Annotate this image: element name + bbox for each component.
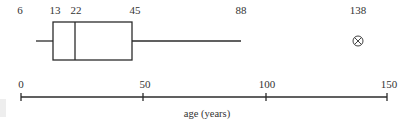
label-q3: 45 (130, 4, 142, 16)
tick-label-150: 150 (381, 78, 398, 90)
outlier-marker-icon (353, 36, 363, 46)
label-median: 22 (71, 4, 82, 16)
label-whisker-high: 88 (236, 4, 248, 16)
label-q1: 13 (50, 4, 62, 16)
tick-label-100: 100 (259, 78, 276, 90)
label-outlier: 138 (350, 4, 367, 16)
x-axis-title: age (years) (184, 108, 231, 120)
iqr-box (53, 22, 132, 60)
label-whisker-low: 6 (17, 4, 23, 16)
box-plot: 6 13 22 45 88 138 0 50 100 150 age (year… (0, 0, 414, 127)
tick-label-50: 50 (140, 78, 152, 90)
tick-label-0: 0 (18, 78, 24, 90)
